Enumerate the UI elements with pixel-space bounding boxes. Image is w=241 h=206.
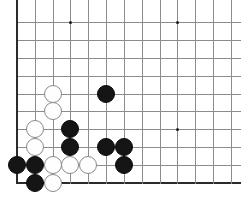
black-stone[interactable]: [115, 156, 133, 174]
black-stone[interactable]: [26, 156, 44, 174]
go-board[interactable]: [0, 0, 241, 206]
black-stone[interactable]: [61, 120, 79, 138]
black-stone[interactable]: [97, 85, 115, 103]
white-stone[interactable]: [61, 156, 79, 174]
white-stone[interactable]: [26, 120, 44, 138]
white-stone[interactable]: [26, 138, 44, 156]
board-stones: [0, 0, 241, 206]
white-stone[interactable]: [44, 174, 62, 192]
black-stone[interactable]: [26, 174, 44, 192]
black-stone[interactable]: [115, 138, 133, 156]
white-stone[interactable]: [44, 156, 62, 174]
white-stone[interactable]: [79, 156, 97, 174]
white-stone[interactable]: [44, 85, 62, 103]
black-stone[interactable]: [97, 138, 115, 156]
black-stone[interactable]: [61, 138, 79, 156]
black-stone[interactable]: [8, 156, 26, 174]
white-stone[interactable]: [44, 102, 62, 120]
